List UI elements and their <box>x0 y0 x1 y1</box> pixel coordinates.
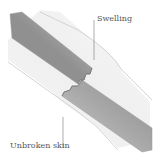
swelling-label: Swelling <box>97 15 132 23</box>
closed-fracture-diagram: Swelling Unbroken skin <box>0 0 157 157</box>
unbroken-skin-label: Unbroken skin <box>10 142 70 150</box>
fracture-illustration <box>0 0 157 157</box>
